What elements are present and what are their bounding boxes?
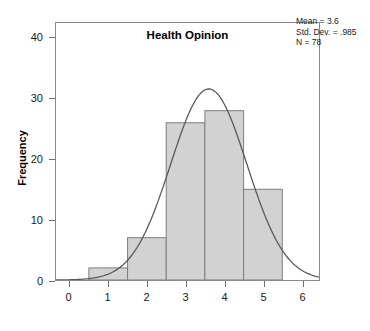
x-tick-mark [147,281,148,287]
x-tick-label: 4 [221,291,227,303]
statistics-annotation: Mean = 3.6 Std. Dev. = .985 N = 78 [296,16,357,48]
plot-area [55,22,320,281]
x-axis-title: Health Opinion [55,29,320,41]
plot-svg [56,23,319,280]
x-tick-label: 2 [144,291,150,303]
histogram-bar [166,123,205,280]
x-tick-label: 1 [105,291,111,303]
y-tick-label: 30 [31,92,43,104]
x-axis: 0123456 [0,281,370,331]
x-tick-label: 0 [66,291,72,303]
x-tick-label: 6 [299,291,305,303]
y-tick-label: 40 [31,31,43,43]
histogram-bars [89,111,282,280]
histogram-bar [244,189,283,280]
x-tick-mark [108,281,109,287]
x-tick-label: 3 [183,291,189,303]
y-tick-label: 10 [31,214,43,226]
stat-n: N = 78 [296,37,357,48]
x-tick-mark [303,281,304,287]
x-tick-mark [225,281,226,287]
stat-mean: Mean = 3.6 [296,16,357,27]
x-tick-label: 5 [260,291,266,303]
y-axis-title: Frequency [16,88,28,228]
histogram-bar [128,238,167,280]
histogram-chart: 010203040 Frequency 0123456 Health Opini… [0,0,370,331]
stat-std-dev: Std. Dev. = .985 [296,27,357,38]
x-tick-mark [186,281,187,287]
x-tick-mark [264,281,265,287]
y-tick-label: 20 [31,153,43,165]
x-tick-mark [69,281,70,287]
